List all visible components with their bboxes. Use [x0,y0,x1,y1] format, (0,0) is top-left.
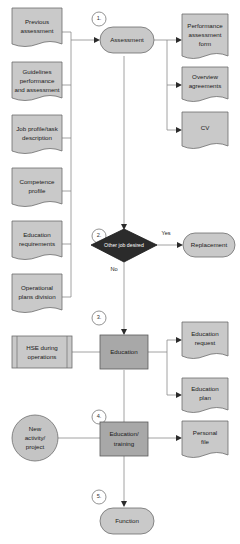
node-replacement[interactable]: Replacement [183,233,235,257]
step-marker-5: 5. [92,490,106,504]
node-label: description [22,134,52,141]
step-number: 3. [97,314,102,320]
step-number: 2. [97,232,102,238]
node-previous-assessment[interactable]: Previous assessment [12,8,62,47]
node-label: Education/ [109,430,139,437]
node-assessment[interactable]: Assessment [100,27,154,53]
node-label: form [199,40,211,47]
node-label: Function [115,517,139,524]
node-label: Overview [192,73,218,80]
node-label: file [201,438,209,445]
node-label: Assessment [110,36,144,43]
edge-label-yes: Yes [161,230,170,236]
node-label: and assessment [14,86,59,93]
node-label: Competence [19,178,55,185]
node-label: Education [191,330,219,337]
node-personal-file[interactable]: Personal file [182,421,228,458]
node-label: New [29,425,42,432]
node-competence-profile[interactable]: Competence profile [12,168,62,207]
step-number: 4. [97,413,102,419]
node-education[interactable]: Education [100,335,148,369]
node-label: operations [28,353,57,360]
node-label: Education [110,348,138,355]
node-label: performance [20,77,55,84]
flowchart-canvas: Previous assessment Guidelines performan… [0,0,240,544]
node-label: training [114,440,135,447]
node-label: Education [23,231,51,238]
node-education-request[interactable]: Education request [182,322,228,359]
node-new-activity-project[interactable]: New activity/ project [12,415,58,461]
step-marker-3: 3. [92,311,106,325]
node-label: agreements [189,82,222,89]
node-overview-agreements[interactable]: Overview agreements [182,67,228,102]
node-label: Replacement [191,241,228,248]
node-label: Previous [25,18,49,25]
node-label: Education [191,385,219,392]
node-label: requirements [19,240,55,247]
edge-label-no: No [110,266,117,272]
node-label: plans division [18,293,56,300]
node-label: request [195,339,216,346]
node-label: Other job desired [104,242,144,248]
node-label: activity/ [25,434,46,441]
node-label: plan [199,394,211,401]
node-performance-assessment-form[interactable]: Performance assessment form [182,14,228,59]
node-label: Job profile/task [16,125,59,132]
node-label: Personal [193,429,217,436]
node-label: profile [29,187,46,194]
node-education-plan[interactable]: Education plan [182,378,228,413]
node-label: assessment [20,27,53,34]
node-label: assessment [188,31,221,38]
step-number: 1. [97,15,102,21]
node-label: HSE during [26,344,58,351]
node-label: project [26,443,45,450]
node-education-requirements[interactable]: Education requirements [12,221,62,260]
step-number: 5. [97,493,102,499]
node-label: Operational [21,284,53,291]
step-marker-1: 1. [92,12,106,26]
node-function[interactable]: Function [100,508,154,534]
node-cv[interactable]: CV [182,112,228,149]
node-label: Guidelines [22,68,51,75]
node-job-profile-task-description[interactable]: Job profile/task description [12,115,62,154]
node-label: Performance [187,22,223,29]
node-label: CV [201,124,210,131]
node-education-training[interactable]: Education/ training [100,422,148,456]
node-operational-plans-division[interactable]: Operational plans division [12,274,62,313]
node-hse-during-operations[interactable]: HSE during operations [12,336,72,368]
node-guidelines-performance-and-assessment[interactable]: Guidelines performance and assessment [12,62,62,101]
